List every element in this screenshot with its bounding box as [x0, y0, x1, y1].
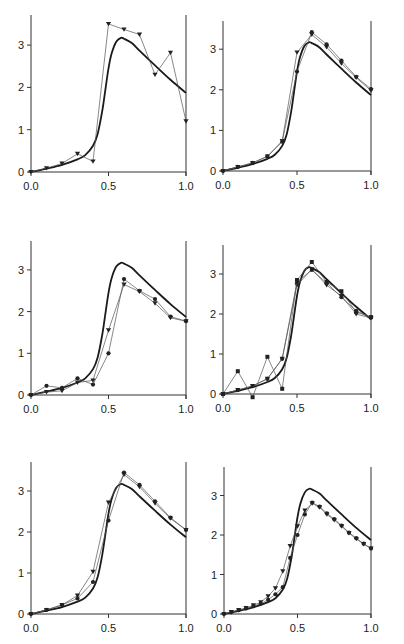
- reference-curve: [224, 489, 371, 614]
- circle-marker-icon: [236, 165, 240, 169]
- series-reference: [223, 42, 371, 171]
- x-tick-label: 1.0: [363, 402, 378, 414]
- x-tick-label: 0.5: [101, 403, 116, 415]
- reference-curve: [31, 38, 186, 172]
- circle-marker-icon: [354, 75, 358, 79]
- series-triangles: [28, 22, 188, 174]
- series-circles: [29, 470, 188, 616]
- square-marker-icon: [265, 355, 269, 359]
- x-tick-label: 0.0: [216, 622, 231, 634]
- triangle-marker-icon: [183, 119, 188, 123]
- circle-marker-icon: [339, 295, 343, 299]
- circle-marker-icon: [362, 542, 366, 546]
- circle-marker-icon: [325, 511, 329, 515]
- panel-top-right: 01230.00.51.0: [210, 21, 379, 191]
- circle-marker-icon: [280, 357, 284, 361]
- triangle-marker-icon: [152, 73, 157, 77]
- data-line: [31, 475, 186, 614]
- circle-marker-icon: [295, 533, 299, 537]
- y-tick-label: 2: [210, 308, 216, 320]
- axes: 01230.00.51.0: [210, 21, 379, 191]
- y-tick-label: 1: [210, 348, 216, 360]
- circle-marker-icon: [340, 523, 344, 527]
- data-line: [31, 24, 186, 172]
- circle-marker-icon: [325, 281, 329, 285]
- panel-middle-right: 01230.00.51.0: [210, 245, 379, 414]
- circle-marker-icon: [265, 154, 269, 158]
- circle-marker-icon: [29, 393, 33, 397]
- circle-marker-icon: [153, 297, 157, 301]
- circle-marker-icon: [259, 602, 263, 606]
- panel-bottom-left: 01230.00.51.0: [18, 462, 194, 634]
- triangle-marker-icon: [294, 50, 299, 54]
- triangle-marker-icon: [106, 328, 111, 332]
- series-reference: [224, 489, 371, 614]
- circle-marker-icon: [168, 315, 172, 319]
- series-triangles: [220, 267, 373, 396]
- data-line: [223, 35, 371, 171]
- circle-marker-icon: [60, 386, 64, 390]
- square-marker-icon: [280, 387, 284, 391]
- circle-marker-icon: [369, 546, 373, 550]
- circle-marker-icon: [122, 277, 126, 281]
- y-tick-label: 0: [211, 608, 217, 620]
- panel-middle-left: 01230.00.51.0: [18, 241, 194, 415]
- circle-marker-icon: [295, 69, 299, 73]
- circle-marker-icon: [339, 58, 343, 62]
- circle-marker-icon: [106, 518, 110, 522]
- circle-marker-icon: [310, 30, 314, 34]
- circle-marker-icon: [273, 592, 277, 596]
- y-tick-label: 2: [18, 81, 24, 93]
- circle-marker-icon: [137, 289, 141, 293]
- circle-marker-icon: [237, 608, 241, 612]
- data-line: [223, 270, 371, 394]
- x-tick-label: 0.5: [101, 180, 116, 192]
- circle-marker-icon: [347, 531, 351, 535]
- circle-marker-icon: [168, 516, 172, 520]
- series-triangles: [220, 33, 373, 174]
- circle-marker-icon: [44, 608, 48, 612]
- y-tick-label: 0: [18, 166, 24, 178]
- x-tick-label: 1.0: [178, 622, 193, 634]
- circle-marker-icon: [184, 319, 188, 323]
- x-tick-label: 0.5: [290, 622, 305, 634]
- y-tick-label: 1: [18, 567, 24, 579]
- circle-marker-icon: [317, 504, 321, 508]
- triangle-marker-icon: [90, 159, 95, 163]
- circle-marker-icon: [44, 384, 48, 388]
- y-tick-label: 2: [210, 84, 216, 96]
- y-tick-label: 3: [210, 268, 216, 280]
- data-line: [223, 269, 371, 394]
- figure-canvas: 01230.00.51.0 01230.00.51.0 01230.00.51.…: [0, 0, 404, 644]
- circle-marker-icon: [369, 315, 373, 319]
- triangle-marker-icon: [137, 33, 142, 37]
- x-tick-label: 0.0: [215, 402, 230, 414]
- y-tick-label: 3: [18, 39, 24, 51]
- x-tick-label: 0.0: [23, 622, 38, 634]
- circle-marker-icon: [295, 280, 299, 284]
- y-tick-label: 2: [18, 526, 24, 538]
- y-tick-label: 3: [210, 43, 216, 55]
- triangle-marker-icon: [106, 22, 111, 26]
- circle-marker-icon: [310, 501, 314, 505]
- circle-marker-icon: [229, 610, 233, 614]
- x-tick-label: 0.0: [23, 180, 38, 192]
- circle-marker-icon: [354, 536, 358, 540]
- circle-marker-icon: [153, 499, 157, 503]
- x-tick-label: 1.0: [363, 179, 378, 191]
- square-marker-icon: [310, 260, 314, 264]
- reference-curve: [223, 42, 371, 171]
- y-tick-label: 0: [18, 389, 24, 401]
- circle-marker-icon: [369, 87, 373, 91]
- circle-marker-icon: [332, 517, 336, 521]
- triangle-marker-icon: [75, 152, 80, 156]
- y-tick-label: 1: [18, 347, 24, 359]
- square-marker-icon: [251, 395, 255, 399]
- circle-marker-icon: [222, 612, 226, 616]
- y-tick-label: 0: [210, 388, 216, 400]
- x-tick-label: 0.5: [289, 179, 304, 191]
- circle-marker-icon: [265, 377, 269, 381]
- circle-marker-icon: [221, 392, 225, 396]
- x-tick-label: 0.5: [289, 402, 304, 414]
- circle-marker-icon: [251, 161, 255, 165]
